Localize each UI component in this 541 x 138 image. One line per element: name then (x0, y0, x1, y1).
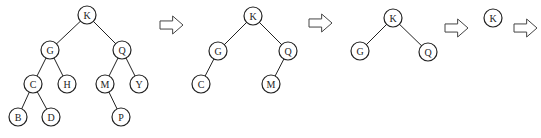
node-label: Y (135, 79, 142, 90)
tree-4-node-K: K (484, 9, 502, 27)
tree-1-node-K: K (78, 6, 96, 24)
tree-2-node-C: C (192, 75, 210, 93)
tree-1-node-C: C (24, 75, 42, 93)
node-label: G (46, 45, 53, 56)
node-label: M (101, 79, 110, 90)
tree-1-node-Q: Q (113, 41, 131, 59)
tree-2-node-K: K (244, 7, 262, 25)
node-label: G (214, 46, 221, 57)
tree-3-node-G: G (351, 42, 369, 60)
node-label: M (267, 79, 276, 90)
node-label: D (47, 112, 54, 123)
node-label: Q (118, 45, 126, 56)
node-label: K (389, 13, 397, 24)
tree-1-node-G: G (41, 41, 59, 59)
node-label: K (489, 13, 497, 24)
node-label: B (15, 112, 22, 123)
tree-3-node-Q: Q (419, 43, 437, 61)
tree-3-node-K: K (384, 9, 402, 27)
tree-1-node-B: B (9, 108, 27, 126)
arrows-layer (160, 14, 537, 37)
transition-arrow-icon-1 (160, 16, 183, 34)
node-label: C (198, 79, 205, 90)
transition-arrow-icon-2 (309, 14, 332, 32)
transition-arrow-icon-3 (445, 19, 468, 37)
node-label: Q (424, 47, 432, 58)
tree-1-node-P: P (112, 108, 130, 126)
node-label: K (83, 10, 91, 21)
tree-1-node-H: H (58, 75, 76, 93)
node-label: H (63, 79, 70, 90)
node-label: C (30, 79, 37, 90)
node-label: G (356, 46, 363, 57)
tree-1-node-D: D (42, 108, 60, 126)
tree-2-node-M: M (262, 75, 280, 93)
tree-2-node-G: G (209, 42, 227, 60)
node-label: P (118, 112, 124, 123)
node-label: K (249, 11, 257, 22)
tree-1-node-M: M (96, 75, 114, 93)
tree-2-node-Q: Q (279, 42, 297, 60)
tree-diagram: KGQCHMYBDPKGQCMKGQK (0, 0, 541, 138)
edges-layer (18, 15, 428, 117)
node-label: Q (284, 46, 292, 57)
tree-1-node-Y: Y (130, 75, 148, 93)
nodes-layer: KGQCHMYBDPKGQCMKGQK (9, 6, 502, 126)
transition-arrow-icon-4 (514, 19, 537, 37)
